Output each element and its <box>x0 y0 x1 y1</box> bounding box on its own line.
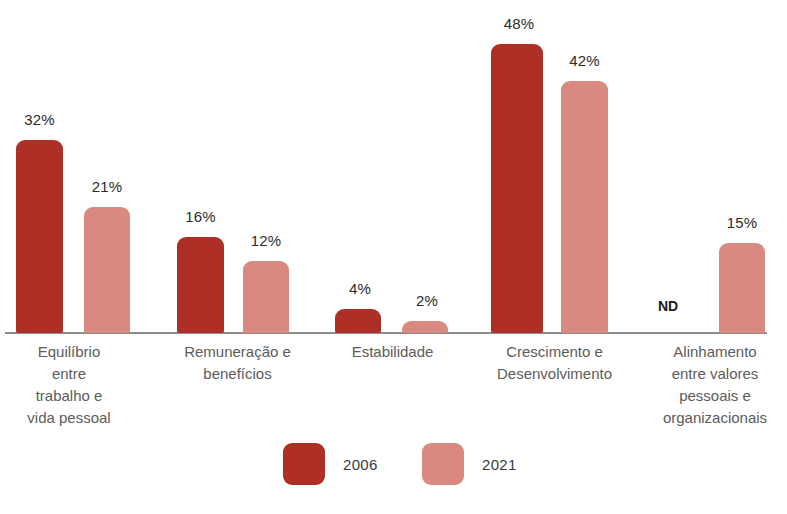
bar-2021-equilibrio-value-label: 21% <box>72 178 142 195</box>
bar-2021-estabilidade-value-label: 2% <box>392 292 462 309</box>
bar-chart: 32%21%16%12%4%2%48%42%15% ND Equilíbrio … <box>0 0 787 514</box>
legend-label-2021: 2021 <box>482 456 517 473</box>
chart-legend: 20062021 <box>0 443 787 493</box>
category-label-equilibrio: Equilíbrio entre trabalho e vida pessoal <box>8 341 130 429</box>
bar-2021-crescimento <box>561 81 608 333</box>
bar-2006-crescimento <box>491 44 543 333</box>
bar-2021-remuneracao-value-label: 12% <box>231 232 301 249</box>
category-label-alinhamento: Alinhamento entre valores pessoais e org… <box>645 341 785 429</box>
bar-2021-estabilidade <box>402 321 448 333</box>
bar-2021-remuneracao <box>243 261 289 333</box>
legend-item-2006[interactable]: 2006 <box>283 443 378 485</box>
bar-2021-equilibrio <box>84 207 130 333</box>
nd-marker-label: ND <box>637 298 699 314</box>
bar-2006-remuneracao-value-label: 16% <box>165 208 236 225</box>
category-label-remuneracao: Remuneração e benefícios <box>160 341 315 385</box>
bar-2006-estabilidade-value-label: 4% <box>325 280 395 297</box>
bar-2021-alinhamento <box>719 243 765 333</box>
bar-2006-equilibrio <box>16 140 63 333</box>
plot-area: 32%21%16%12%4%2%48%42%15% ND <box>0 0 787 340</box>
legend-item-2021[interactable]: 2021 <box>422 443 517 485</box>
bar-2021-crescimento-value-label: 42% <box>549 52 620 69</box>
legend-label-2006: 2006 <box>343 456 378 473</box>
legend-swatch-2021 <box>422 443 464 485</box>
legend-swatch-2006 <box>283 443 325 485</box>
category-label-estabilidade: Estabilidade <box>325 341 460 363</box>
bar-2006-remuneracao <box>177 237 224 333</box>
bar-2006-crescimento-value-label: 48% <box>481 15 557 32</box>
bar-2006-equilibrio-value-label: 32% <box>4 111 75 128</box>
bar-2006-estabilidade <box>335 309 381 333</box>
bar-2021-alinhamento-value-label: 15% <box>707 214 777 231</box>
category-label-crescimento: Crescimento e Desenvolvimento <box>472 341 637 385</box>
